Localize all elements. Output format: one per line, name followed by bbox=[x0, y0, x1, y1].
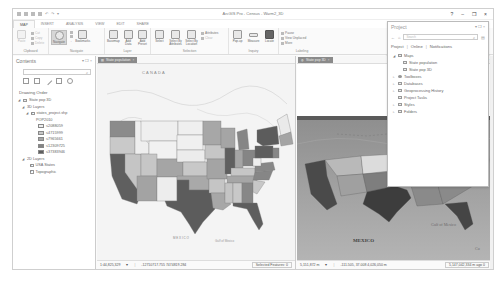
restore-button[interactable]: ❐ bbox=[472, 11, 476, 17]
tab-state-population[interactable]: ▤ State population × bbox=[98, 57, 137, 63]
attributes-button[interactable]: Attributes bbox=[201, 31, 218, 35]
layer-visibility-checkbox[interactable]: ✓ bbox=[30, 164, 34, 168]
copy-button[interactable]: Copy bbox=[31, 36, 44, 40]
scale-dropdown-icon[interactable]: ▾ bbox=[126, 263, 128, 267]
selected-features-count[interactable]: Selected Features: 0 bbox=[252, 262, 292, 268]
paste-button[interactable]: Paste bbox=[15, 30, 28, 43]
expand-icon[interactable]: ◢ bbox=[22, 157, 25, 161]
expand-icon[interactable]: ◢ bbox=[18, 98, 21, 102]
previous-extent-button[interactable]: ← bbox=[70, 39, 73, 43]
zoom-icon bbox=[70, 35, 73, 38]
binoculars-icon bbox=[265, 30, 274, 39]
tab-share[interactable]: SHARE bbox=[131, 20, 155, 28]
tab-map[interactable]: MAP bbox=[13, 20, 35, 28]
minimize-button[interactable]: – bbox=[461, 11, 464, 17]
list-by-snapping-icon[interactable] bbox=[67, 78, 73, 84]
collapse-icon[interactable]: ▹ bbox=[393, 110, 396, 114]
group-inquiry: Pop-up Measure Locate Inquiry bbox=[229, 28, 279, 54]
group-layer: Basemap Add Data Add Preset Layer bbox=[105, 28, 151, 54]
pause-icon bbox=[281, 32, 284, 35]
tab-notifications[interactable]: Notifications bbox=[430, 44, 452, 49]
expand-icon[interactable]: ◢ bbox=[26, 111, 29, 115]
measure-button[interactable]: Measure bbox=[247, 30, 260, 43]
divider: | bbox=[134, 263, 135, 267]
project-tree: ◢ Maps State population State pop 3D ▹ T… bbox=[388, 49, 488, 115]
tree-item-geoprocessing-history[interactable]: ▹ Geoprocessing History bbox=[393, 87, 485, 94]
tab-view[interactable]: VIEW bbox=[89, 20, 110, 28]
layer-visibility-checkbox[interactable]: ✓ bbox=[30, 170, 34, 174]
tab-project[interactable]: Project bbox=[391, 44, 404, 49]
add-data-button[interactable]: Add Data bbox=[123, 30, 134, 47]
close-tab-icon[interactable]: × bbox=[133, 58, 135, 62]
basemap-button[interactable]: Basemap bbox=[107, 30, 120, 43]
bookmarks-icon bbox=[78, 30, 87, 39]
project-search-input[interactable]: Search ⌕ bbox=[403, 34, 478, 40]
options-icon[interactable]: ▤ bbox=[481, 35, 485, 40]
tree-item-folders[interactable]: ▹ Folders bbox=[393, 108, 485, 115]
list-by-drawing-order-icon[interactable] bbox=[23, 78, 29, 84]
tab-state-pop-3d[interactable]: ◍ State pop 3D × bbox=[298, 57, 333, 63]
tree-item-toolboxes[interactable]: ▹ Toolboxes bbox=[393, 73, 485, 80]
collapse-icon[interactable]: ▹ bbox=[393, 103, 396, 107]
tree-item-state-population[interactable]: State population bbox=[393, 59, 485, 66]
tab-analysis[interactable]: ANALYSIS bbox=[60, 20, 89, 28]
back-icon[interactable]: ← bbox=[391, 35, 395, 40]
collapse-icon[interactable]: ▹ bbox=[393, 89, 396, 93]
list-by-editing-icon[interactable] bbox=[44, 77, 52, 85]
label-mexico: MEXICO bbox=[173, 236, 190, 240]
explore-button[interactable]: Navigate bbox=[51, 30, 67, 45]
select-by-location-button[interactable]: Select By Location bbox=[185, 30, 198, 47]
tab-edit[interactable]: EDIT bbox=[110, 20, 130, 28]
delete-button[interactable]: Delete bbox=[31, 41, 44, 45]
tree-item-state-pop-3d[interactable]: State pop 3D bbox=[393, 66, 485, 73]
scale-selector[interactable]: 5,151,872 m bbox=[300, 263, 319, 267]
close-tab-icon[interactable]: × bbox=[328, 58, 330, 62]
more-button[interactable]: More bbox=[281, 41, 306, 45]
coordinates-display: -111.505, 37.008 4,026,050 m bbox=[340, 263, 386, 267]
expand-icon[interactable]: ◢ bbox=[393, 54, 396, 58]
tab-online[interactable]: Online bbox=[411, 44, 423, 49]
table-icon bbox=[201, 32, 204, 35]
layer-visibility-checkbox[interactable]: ✓ bbox=[31, 112, 35, 116]
contents-pane-controls[interactable]: ▾ ❐ × bbox=[82, 59, 92, 63]
group-label-layer: Layer bbox=[105, 49, 150, 53]
cut-button[interactable]: Cut bbox=[31, 31, 44, 35]
select-by-attributes-button[interactable]: Select By Attributes bbox=[169, 30, 182, 47]
select-button[interactable]: Select bbox=[153, 30, 166, 43]
bookmarks-button[interactable]: Bookmarks bbox=[76, 30, 89, 43]
tab-insert[interactable]: INSERT bbox=[35, 20, 60, 28]
clear-button[interactable]: Clear bbox=[201, 36, 218, 40]
project-pane-controls[interactable]: ▾ ❐ × bbox=[475, 25, 485, 29]
contents-search-input[interactable]: ⌕ bbox=[23, 69, 91, 75]
list-by-selection-icon[interactable] bbox=[56, 78, 62, 84]
help-button[interactable]: ? bbox=[451, 11, 454, 17]
collapse-icon[interactable]: ▹ bbox=[393, 82, 396, 86]
scale-selector[interactable]: 1:44,825,329 bbox=[100, 263, 120, 267]
home-icon[interactable]: ⌂ bbox=[398, 35, 400, 40]
search-icon: ⌕ bbox=[473, 35, 475, 40]
map-canvas-2d[interactable]: CANADA bbox=[97, 64, 295, 260]
collapse-icon[interactable]: ▹ bbox=[393, 75, 396, 79]
list-by-source-icon[interactable] bbox=[34, 78, 40, 84]
view-unplaced-button[interactable]: View Unplaced bbox=[281, 36, 306, 40]
close-button[interactable]: × bbox=[484, 11, 487, 17]
add-preset-button[interactable]: Add Preset bbox=[137, 30, 148, 47]
toc-item-topographic[interactable]: ✓ Topographic bbox=[18, 169, 95, 176]
tree-item-styles[interactable]: ▹ Styles bbox=[393, 101, 485, 108]
zoom-full-button[interactable] bbox=[70, 31, 73, 34]
group-label-labeling: Labeling bbox=[279, 49, 325, 53]
expand-icon[interactable]: ◢ bbox=[22, 105, 25, 109]
label-gulf-of-mexico: Gulf of Mexico bbox=[431, 222, 456, 227]
scene-icon bbox=[23, 99, 27, 102]
scale-dropdown-icon[interactable]: ▾ bbox=[325, 263, 327, 267]
legend-swatch bbox=[38, 124, 44, 128]
tree-item-databases[interactable]: ▹ Databases bbox=[393, 80, 485, 87]
zoom-fixed-button[interactable] bbox=[70, 35, 73, 38]
locate-button[interactable]: Locate bbox=[263, 30, 276, 43]
tree-item-project-tasks[interactable]: Project Tasks bbox=[393, 94, 485, 101]
pause-button[interactable]: Pause bbox=[281, 31, 306, 35]
tree-item-maps[interactable]: ◢ Maps bbox=[393, 52, 485, 59]
view-tab-bar: ▤ State population × bbox=[97, 56, 295, 64]
popup-button[interactable]: Pop-up bbox=[231, 30, 244, 43]
select-by-location-icon bbox=[187, 30, 196, 39]
